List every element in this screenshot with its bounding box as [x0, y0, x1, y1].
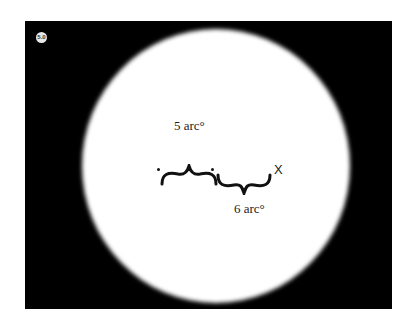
figure-number-badge: 5.0	[36, 32, 47, 43]
lower-brace-icon	[216, 173, 272, 195]
target-x-marker: X	[274, 162, 283, 177]
upper-brace-icon	[160, 164, 218, 186]
point-left	[157, 168, 160, 171]
upper-distance-label: 5 arc°	[174, 118, 205, 134]
point-middle	[211, 168, 214, 171]
figure-panel: 5.0 5 arc° X 6 arc°	[25, 21, 392, 309]
lower-distance-label: 6 arc°	[234, 201, 265, 217]
